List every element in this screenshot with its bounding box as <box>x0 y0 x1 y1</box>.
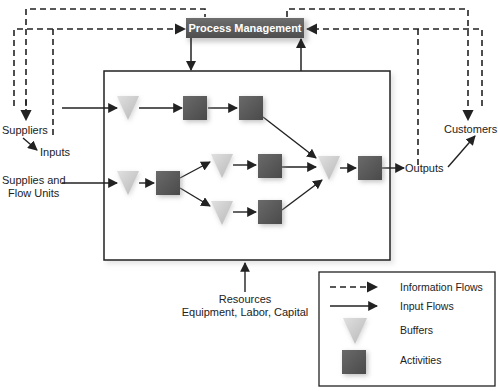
outputs-label: Outputs <box>405 162 444 174</box>
activity-icon <box>258 154 284 180</box>
legend-activity-icon <box>342 350 368 376</box>
process-flow-diagram: Process Management <box>0 0 498 391</box>
process-management-label: Process Management <box>188 22 301 34</box>
process-management-box: Process Management <box>186 18 308 42</box>
activity-icon <box>239 96 265 122</box>
legend-activities: Activities <box>400 354 441 366</box>
activity-icon <box>358 156 384 182</box>
legend: Information Flows Input Flows Buffers Ac… <box>319 272 495 386</box>
activity-icon <box>258 200 284 226</box>
legend-information-flows: Information Flows <box>400 281 483 293</box>
legend-input-flows: Input Flows <box>400 300 454 312</box>
activity-icon <box>183 96 209 122</box>
supplies-label-line1: Supplies and <box>2 174 66 186</box>
legend-buffers: Buffers <box>400 324 433 336</box>
resources-label: Resources <box>219 293 272 305</box>
inputs-label: Inputs <box>40 146 70 158</box>
suppliers-label: Suppliers <box>2 124 48 136</box>
customers-label: Customers <box>444 123 498 135</box>
activity-icon <box>156 171 182 197</box>
resources-detail-label: Equipment, Labor, Capital <box>182 306 309 318</box>
supplies-label-line2: Flow Units <box>8 187 60 199</box>
pm-links <box>191 38 301 71</box>
